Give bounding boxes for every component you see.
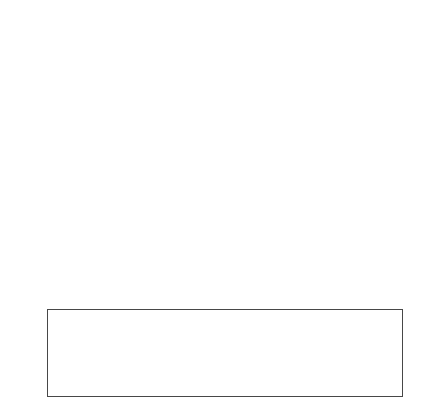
figure <box>0 0 432 405</box>
plot-area <box>0 0 432 305</box>
legend-box <box>47 309 403 397</box>
